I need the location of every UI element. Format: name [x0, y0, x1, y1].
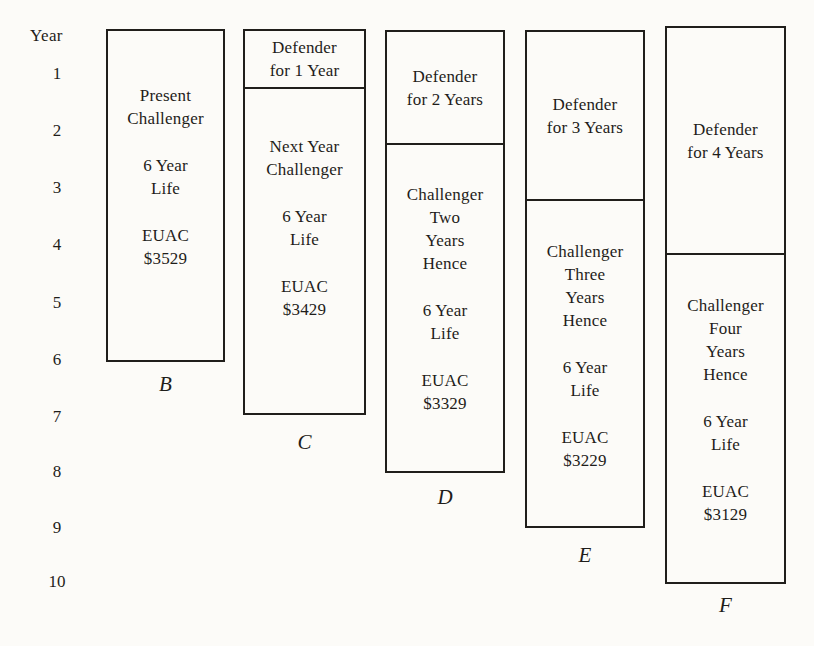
year-tick-6: 6	[35, 350, 79, 370]
option-e-challenger-euac: EUAC $3229	[561, 426, 608, 472]
option-c-defender-text: Defender for 1 Year	[270, 36, 340, 82]
option-f-challenger-box: Challenger Four Years Hence 6 Year Life …	[665, 253, 786, 584]
option-e-defender-box: Defender for 3 Years	[525, 30, 645, 199]
option-c-label: C	[243, 430, 366, 455]
year-tick-4: 4	[35, 235, 79, 255]
replacement-analysis-diagram: Year 1 2 3 4 5 6 7 8 9 10 Present Challe…	[0, 0, 814, 646]
year-tick-1: 1	[35, 64, 79, 84]
option-f-challenger-life: 6 Year Life	[703, 410, 748, 456]
option-d-defender-text: Defender for 2 Years	[407, 65, 483, 111]
option-b-challenger-life: 6 Year Life	[143, 154, 188, 200]
option-e-challenger-box: Challenger Three Years Hence 6 Year Life…	[525, 199, 645, 528]
option-b-challenger-euac: EUAC $3529	[142, 224, 189, 270]
option-f-challenger-euac: EUAC $3129	[702, 480, 749, 526]
option-b-label: B	[106, 372, 225, 397]
option-d-label: D	[385, 485, 505, 510]
year-axis-title: Year	[30, 26, 63, 46]
year-tick-2: 2	[35, 121, 79, 141]
option-d-challenger-title: Challenger Two Years Hence	[407, 183, 484, 275]
year-tick-9: 9	[35, 518, 79, 538]
option-f-defender-box: Defender for 4 Years	[665, 26, 786, 253]
option-b-challenger-box: Present Challenger 6 Year Life EUAC $352…	[106, 29, 225, 362]
option-e-defender-text: Defender for 3 Years	[547, 93, 623, 139]
option-d-challenger-euac: EUAC $3329	[421, 369, 468, 415]
option-c-challenger-life: 6 Year Life	[282, 205, 327, 251]
option-d-challenger-box: Challenger Two Years Hence 6 Year Life E…	[385, 143, 505, 473]
option-c-challenger-title: Next Year Challenger	[266, 135, 343, 181]
option-f-challenger-title: Challenger Four Years Hence	[687, 294, 764, 386]
option-c-challenger-box: Next Year Challenger 6 Year Life EUAC $3…	[243, 87, 366, 415]
year-tick-10: 10	[35, 572, 79, 592]
option-b-challenger-title: Present Challenger	[127, 84, 204, 130]
option-e-label: E	[525, 543, 645, 568]
option-f-defender-text: Defender for 4 Years	[687, 118, 763, 164]
option-d-defender-box: Defender for 2 Years	[385, 30, 505, 143]
option-f-label: F	[665, 593, 786, 618]
option-c-defender-box: Defender for 1 Year	[243, 29, 366, 87]
option-e-challenger-title: Challenger Three Years Hence	[547, 240, 624, 332]
year-tick-5: 5	[35, 293, 79, 313]
option-d-challenger-life: 6 Year Life	[423, 299, 468, 345]
year-tick-3: 3	[35, 178, 79, 198]
year-tick-7: 7	[35, 407, 79, 427]
option-c-challenger-euac: EUAC $3429	[281, 275, 328, 321]
year-tick-8: 8	[35, 462, 79, 482]
option-e-challenger-life: 6 Year Life	[563, 356, 608, 402]
